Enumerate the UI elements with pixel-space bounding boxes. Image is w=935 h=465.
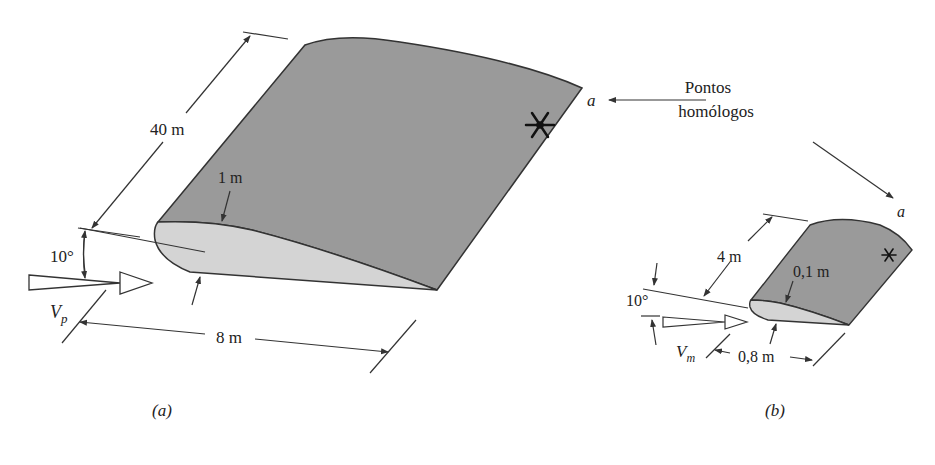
model-velocity-symbol: Vm (676, 342, 695, 365)
panel-label-b: (b) (765, 401, 785, 420)
model-chord-line (643, 289, 748, 308)
model-chord-label: 0,8 m (738, 348, 775, 365)
airfoil-similarity-diagram: 40 m 1 m 10° Vp 8 m a Pontos homólogos (0, 0, 935, 465)
prototype-span-label: 40 m (150, 120, 184, 139)
model-chord-dimension (706, 333, 845, 366)
model-point-label: a (897, 203, 905, 220)
prototype-angle-dimension (84, 231, 86, 278)
prototype-point-label: a (587, 91, 596, 110)
model-thickness-label: 0,1 m (793, 263, 830, 280)
homologous-points-line1: Pontos (685, 78, 731, 97)
annotation-arrow-to-model (813, 142, 893, 198)
prototype-wing (80, 38, 582, 290)
prototype-thickness-label: 1 m (218, 169, 243, 186)
prototype-angle-label: 10° (50, 247, 74, 266)
model-span-label: 4 m (717, 248, 742, 265)
prototype-velocity-arrow (29, 272, 152, 294)
model-wing (750, 220, 912, 326)
prototype-chord-label: 8 m (216, 328, 242, 347)
panel-label-a: (a) (152, 401, 172, 420)
homologous-points-line2: homólogos (678, 102, 754, 121)
model-angle-label: 10° (626, 292, 648, 309)
model-velocity-arrow (663, 315, 747, 329)
prototype-velocity-symbol: Vp (50, 302, 68, 326)
